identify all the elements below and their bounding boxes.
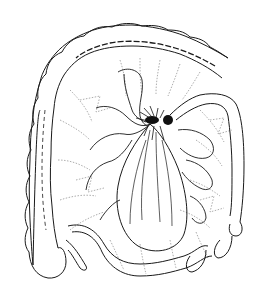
central-sac bbox=[117, 124, 187, 251]
illustration-canvas bbox=[0, 0, 266, 301]
mesenteric-folds bbox=[86, 69, 213, 223]
mesentery-vessels bbox=[58, 58, 232, 274]
large-intestine bbox=[25, 23, 228, 278]
intestine-illustration bbox=[0, 0, 266, 301]
small-intestine-loop bbox=[68, 225, 212, 276]
descending-colon bbox=[170, 94, 244, 272]
